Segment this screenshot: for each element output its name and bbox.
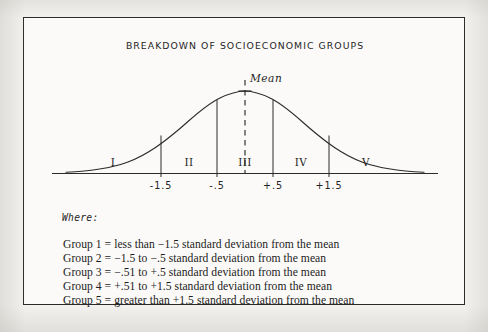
axis-label-minus-1-5: -1.5 (150, 180, 172, 191)
region-label-iii: III (238, 156, 252, 168)
group-definition-3: Group 3 = −.51 to +.5 standard deviation… (63, 266, 453, 280)
group-definition-5: Group 5 = greater than +1.5 standard dev… (63, 294, 453, 308)
region-label-v: V (362, 156, 370, 168)
region-label-ii: II (184, 156, 193, 168)
region-label-iv: IV (295, 156, 307, 168)
mean-label: Mean (250, 72, 282, 84)
figure-frame: BREAKDOWN OF SOCIOECONOMIC GROUPS (23, 17, 465, 305)
region-label-i: I (111, 156, 116, 168)
axis-label-minus-0-5: -.5 (209, 180, 224, 191)
group-definition-4: Group 4 = +.51 to +1.5 standard deviatio… (63, 280, 453, 294)
group-definition-2: Group 2 = −1.5 to −.5 standard deviation… (63, 252, 453, 266)
axis-label-plus-1-5: +1.5 (316, 180, 343, 191)
group-definition-list: Group 1 = less than −1.5 standard deviat… (63, 238, 453, 308)
figure-root: BREAKDOWN OF SOCIOECONOMIC GROUPS (0, 0, 488, 332)
where-label: Where: (62, 212, 98, 223)
axis-label-plus-0-5: +.5 (263, 180, 283, 191)
group-definition-1: Group 1 = less than −1.5 standard deviat… (63, 238, 453, 252)
